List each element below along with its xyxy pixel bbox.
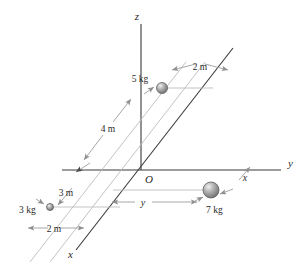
dim-4m-arrow-lower [84,135,103,160]
coordinate-system-svg: z y x O 5 kg 3 kg 7 kg 2 m 4 m 3 m 2 m y… [0,0,306,270]
dim-3m-label: 3 m [59,188,74,198]
dim-bottom-2m-label: 2 m [47,224,62,234]
z-axis-label: z [134,10,140,22]
dim-top-2m-label: 2 m [193,62,208,72]
mass-5kg-pointer-arrow [144,87,154,94]
mass-5kg-sphere [157,83,168,94]
mass-7kg-pointer-arrow [193,197,203,202]
origin-label: O [145,173,153,185]
x-axis-label: x [67,248,73,260]
mass-3kg-sphere [47,204,54,211]
guide-diagonal-through-5kg [50,62,205,262]
physics-diagram-canvas: z y x O 5 kg 3 kg 7 kg 2 m 4 m 3 m 2 m y… [0,0,306,270]
mass-5kg-label: 5 kg [132,74,149,84]
dim-x-label: x [242,172,248,183]
dim-y-label: y [140,197,146,208]
mass-3kg-pointer-arrow [36,199,44,204]
dim-x-arrow-lower [220,189,233,194]
dim-4m-label: 4 m [101,124,116,134]
dim-4m-arrow-upper [113,99,131,122]
x-axis-line [76,48,233,250]
mass-3kg-label: 3 kg [19,205,36,215]
mass-7kg-sphere [203,182,219,198]
y-axis-label: y [287,157,293,169]
labels-group: z y x O 5 kg 3 kg 7 kg 2 m 4 m 3 m 2 m y… [19,10,293,260]
dimension-lines-group [28,64,250,228]
dim-3m-tick-arrow [76,163,90,172]
axes-group [62,24,281,250]
mass-7kg-label: 7 kg [206,205,223,215]
